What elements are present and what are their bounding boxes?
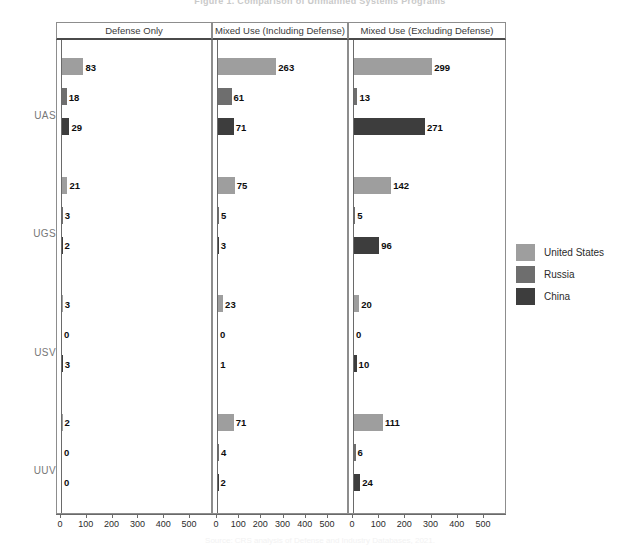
bar-ugs-russia <box>354 207 355 224</box>
panel-header: Mixed Use (Excluding Defense) <box>348 22 506 40</box>
bar-value-label: 13 <box>359 91 370 102</box>
x-axis-tick-label: 300 <box>130 519 145 529</box>
bar-value-label: 61 <box>234 91 245 102</box>
bar-usv-china <box>62 355 63 372</box>
bar-value-label: 111 <box>385 417 400 428</box>
panel-1: Defense Only8318292132303200010020030040… <box>56 22 212 514</box>
bar-uas-china <box>62 118 69 135</box>
legend-item-china: China <box>516 285 634 307</box>
bar-ugs-united-states <box>218 177 235 194</box>
legend-swatch-us <box>516 244 535 261</box>
x-axis-tick-label: 300 <box>275 519 290 529</box>
bar-uas-russia <box>62 88 67 105</box>
x-axis-tick <box>60 514 61 518</box>
bar-ugs-united-states <box>354 177 391 194</box>
legend-swatch-russia <box>516 266 535 283</box>
x-axis-tick <box>86 514 87 518</box>
bar-value-label: 4 <box>221 447 226 458</box>
figure-caption: Source: CRS analysis of Defense and Indu… <box>0 536 640 545</box>
legend-swatch-china <box>516 288 535 305</box>
x-axis-tick-label: 400 <box>449 519 464 529</box>
bar-value-label: 21 <box>69 180 80 191</box>
x-axis-tick-label: 500 <box>319 519 334 529</box>
panel-header: Mixed Use (Including Defense) <box>212 22 348 40</box>
x-axis-tick <box>112 514 113 518</box>
x-axis-tick-label: 100 <box>371 519 386 529</box>
bar-value-label: 83 <box>85 61 96 72</box>
x-axis-tick-label: 100 <box>78 519 93 529</box>
figure-title: Figure 1. Comparison of Unmanned Systems… <box>0 0 640 6</box>
category-axis: UASUGSUSVUUV <box>8 58 56 494</box>
x-axis-tick <box>404 514 405 518</box>
x-axis: 0100200300400500 <box>56 514 212 528</box>
x-axis-tick <box>163 514 164 518</box>
bar-value-label: 0 <box>64 477 69 488</box>
panel-plot-area: 8318292132303200 <box>56 40 212 514</box>
bar-uuv-united-states <box>62 414 63 431</box>
x-axis-tick <box>483 514 484 518</box>
x-axis-tick-label: 500 <box>182 519 197 529</box>
chart-legend: United StatesRussiaChina <box>516 241 634 307</box>
x-axis-tick-label: 200 <box>104 519 119 529</box>
bar-uuv-russia <box>218 444 219 461</box>
x-axis-tick <box>238 514 239 518</box>
bar-value-label: 3 <box>65 358 70 369</box>
legend-label-russia: Russia <box>544 269 575 280</box>
panel-3: Mixed Use (Excluding Defense)29913271142… <box>348 22 506 514</box>
category-label-usv: USV <box>8 346 56 357</box>
x-axis-tick <box>457 514 458 518</box>
value-axis-baseline <box>217 40 218 513</box>
x-axis-tick-label: 200 <box>397 519 412 529</box>
x-axis: 0100200300400500 <box>348 514 506 528</box>
bar-value-label: 299 <box>434 61 450 72</box>
bar-uas-united-states <box>218 58 276 75</box>
bar-uas-china <box>354 118 425 135</box>
bar-uas-united-states <box>62 58 83 75</box>
x-axis-tick <box>327 514 328 518</box>
legend-item-us: United States <box>516 241 634 263</box>
bar-value-label: 71 <box>236 417 247 428</box>
bar-value-label: 24 <box>362 477 373 488</box>
bar-value-label: 20 <box>361 298 372 309</box>
bar-ugs-china <box>218 237 219 254</box>
bar-value-label: 271 <box>427 121 443 132</box>
x-axis: 0100200300400500 <box>212 514 348 528</box>
value-axis-baseline <box>353 40 354 513</box>
x-axis-tick-label: 0 <box>57 519 62 529</box>
bar-uas-russia <box>218 88 232 105</box>
bar-value-label: 2 <box>65 240 70 251</box>
bar-value-label: 5 <box>357 210 362 221</box>
bar-usv-united-states <box>62 295 63 312</box>
bar-value-label: 71 <box>236 121 247 132</box>
legend-item-russia: Russia <box>516 263 634 285</box>
bar-value-label: 0 <box>64 328 69 339</box>
bar-usv-united-states <box>218 295 223 312</box>
bar-ugs-china <box>354 237 379 254</box>
x-axis-tick-label: 100 <box>231 519 246 529</box>
x-axis-tick <box>305 514 306 518</box>
bar-uas-united-states <box>354 58 432 75</box>
bar-uuv-russia <box>354 444 356 461</box>
x-axis-tick <box>137 514 138 518</box>
x-axis-tick <box>352 514 353 518</box>
x-axis-tick-label: 300 <box>423 519 438 529</box>
x-axis-tick-label: 0 <box>213 519 218 529</box>
bar-uas-china <box>218 118 234 135</box>
bar-value-label: 0 <box>220 328 225 339</box>
category-label-ugs: UGS <box>8 228 56 239</box>
bar-value-label: 75 <box>237 180 248 191</box>
x-axis-tick-label: 400 <box>297 519 312 529</box>
x-axis-tick <box>189 514 190 518</box>
bar-value-label: 0 <box>356 328 361 339</box>
bar-value-label: 3 <box>65 210 70 221</box>
bar-value-label: 96 <box>381 240 392 251</box>
bar-uuv-china <box>354 474 360 491</box>
bar-usv-united-states <box>354 295 359 312</box>
panel-2: Mixed Use (Including Defense)26361717553… <box>212 22 348 514</box>
legend-label-china: China <box>544 291 570 302</box>
bar-value-label: 6 <box>358 447 363 458</box>
bar-value-label: 18 <box>69 91 80 102</box>
panel-plot-area: 2991327114259620010111624 <box>348 40 506 514</box>
bar-value-label: 263 <box>278 61 294 72</box>
category-label-uas: UAS <box>8 109 56 120</box>
